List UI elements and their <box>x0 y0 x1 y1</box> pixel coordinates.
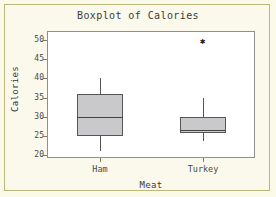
median-line-turkey <box>180 130 226 131</box>
y-tick-mark-40 <box>43 78 47 79</box>
x-tick-label-ham: Ham <box>70 164 130 174</box>
whisker-lower-ham <box>100 136 101 151</box>
y-tick-mark-35 <box>43 98 47 99</box>
x-axis-label: Meat <box>47 180 255 190</box>
y-tick-mark-25 <box>43 136 47 137</box>
x-tick-label-turkey: Turkey <box>173 164 233 174</box>
y-tick-label-40: 40 <box>4 73 44 82</box>
outlier-marker-turkey: ✱ <box>200 37 205 46</box>
whisker-lower-turkey <box>203 133 204 141</box>
y-tick-label-50: 50 <box>4 35 44 44</box>
y-tick-label-35: 35 <box>4 93 44 102</box>
chart-figure: Boxplot of Calories Calories 20 25 30 35… <box>0 0 276 197</box>
y-tick-label-25: 25 <box>4 131 44 140</box>
y-tick-label-45: 45 <box>4 54 44 63</box>
x-tick-mark-ham <box>100 158 101 162</box>
y-tick-label-20: 20 <box>4 150 44 159</box>
median-line-ham <box>77 117 123 118</box>
y-axis: 20 25 30 35 40 45 50 <box>0 0 44 197</box>
whisker-upper-turkey <box>203 98 204 117</box>
whisker-upper-ham <box>100 78 101 94</box>
y-tick-mark-45 <box>43 59 47 60</box>
y-tick-label-30: 30 <box>4 112 44 121</box>
y-tick-mark-20 <box>43 155 47 156</box>
x-tick-mark-turkey <box>203 158 204 162</box>
y-tick-mark-30 <box>43 117 47 118</box>
box-ham[interactable] <box>77 94 123 136</box>
y-tick-mark-50 <box>43 40 47 41</box>
